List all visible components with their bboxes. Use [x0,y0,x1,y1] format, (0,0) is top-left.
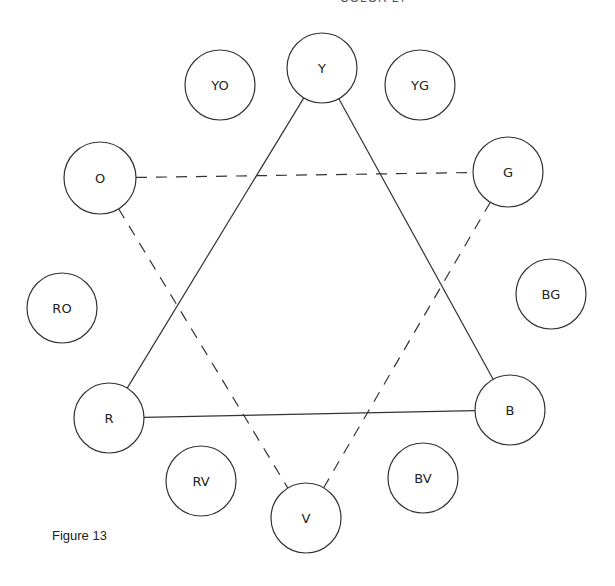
node-v: V [271,483,341,553]
node-bg: BG [516,259,586,329]
figure-caption: Figure 13 [52,528,107,543]
color-wheel-diagram: YYOYGOGROBGRBRVBVV [0,0,615,586]
node-label: R [104,411,113,426]
node-y: Y [287,33,357,103]
node-rv: RV [166,446,236,516]
node-bv: BV [388,443,458,513]
node-label: YO [210,78,228,93]
node-label: YG [410,78,429,93]
edge-o-g [136,173,473,178]
node-o: O [64,142,136,214]
node-label: B [506,403,515,418]
edge-y-r [127,98,304,388]
node-r: R [74,383,144,453]
node-label: Y [317,61,326,76]
edge-r-b [144,411,475,418]
node-label: RO [52,301,71,316]
node-label: BG [542,287,561,302]
node-label: V [302,511,311,526]
edge-g-v [324,202,491,488]
edge-y-b [339,99,493,380]
node-yo: YO [185,50,255,120]
node-yg: YG [385,50,455,120]
edges [119,98,493,488]
node-label: BV [414,471,432,486]
node-g: G [473,137,543,207]
node-b: B [475,375,545,445]
node-label: RV [192,474,209,489]
node-label: O [95,171,105,186]
node-label: G [503,165,513,180]
node-ro: RO [27,273,97,343]
